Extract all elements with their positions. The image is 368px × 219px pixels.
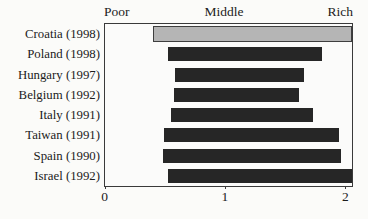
top-axis-label-rich: Rich [328,4,354,20]
plot-area [104,23,353,187]
range-bar-hungary [175,68,304,82]
range-bar-spain [163,149,341,163]
category-label: Belgium (1992) [19,88,100,102]
category-label: Croatia (1998) [25,27,100,41]
top-axis-label-poor: Poor [104,4,130,20]
category-label: Israel (1992) [34,169,100,183]
category-label: Poland (1998) [27,47,100,61]
range-bar-croatia [153,26,352,42]
x-tick-label: 1 [222,189,229,205]
chart-figure: Poor Middle Rich Croatia (1998)Poland (1… [0,0,368,219]
top-axis-label-middle: Middle [205,4,244,20]
x-tick-label: 2 [342,189,349,205]
range-bar-israel [168,169,352,183]
category-label: Taiwan (1991) [25,128,100,142]
range-bar-taiwan [164,128,339,142]
category-label: Italy (1991) [39,108,100,122]
category-label-column: Croatia (1998)Poland (1998)Hungary (1997… [0,24,100,186]
range-bar-italy [171,108,313,122]
category-label: Spain (1990) [34,149,100,163]
range-bar-belgium [174,88,299,102]
range-bar-poland [168,47,322,61]
category-label: Hungary (1997) [18,68,100,82]
x-tick-label: 0 [101,189,108,205]
